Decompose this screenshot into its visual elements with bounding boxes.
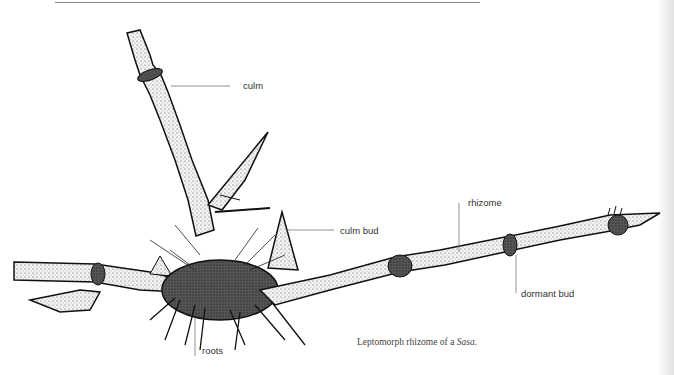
culm-stem <box>127 30 214 236</box>
caption-text: Leptomorph rhizome of a <box>357 337 457 347</box>
label-rhizome: rhizome <box>468 197 502 208</box>
culm-bud-shape <box>268 212 298 270</box>
label-dormant-bud: dormant bud <box>521 288 574 299</box>
right-rhizome <box>260 206 660 305</box>
rhizome-illustration <box>0 0 674 375</box>
label-culm: culm <box>243 80 263 91</box>
label-roots: roots <box>202 345 223 356</box>
caption-period: . <box>475 337 477 347</box>
culm-branch <box>208 132 268 210</box>
caption-genus: Sasa <box>457 337 475 347</box>
label-culm-bud: culm bud <box>340 225 379 236</box>
figure-caption: Leptomorph rhizome of a Sasa. <box>357 337 477 347</box>
figure-page: culm culm bud rhizome dormant bud roots … <box>0 0 674 375</box>
